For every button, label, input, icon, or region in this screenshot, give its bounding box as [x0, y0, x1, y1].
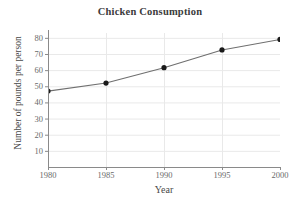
data-point — [161, 65, 166, 70]
chart-title: Chicken Consumption — [0, 6, 300, 17]
y-tick-label: 30 — [3, 115, 43, 124]
plot-area — [48, 33, 280, 167]
y-tick-label: 80 — [3, 34, 43, 43]
y-tick-label: 20 — [3, 131, 43, 140]
data-point — [277, 37, 280, 42]
x-tick-label: 1980 — [28, 171, 68, 180]
x-tick-label: 1995 — [202, 171, 242, 180]
y-tick-label: 60 — [3, 66, 43, 75]
line-chart-svg — [48, 33, 280, 167]
y-tick-label: 70 — [3, 50, 43, 59]
x-tick-label: 1990 — [144, 171, 184, 180]
y-tick-label: 40 — [3, 98, 43, 107]
x-tick-label: 2000 — [260, 171, 300, 180]
y-tick-label: 10 — [3, 147, 43, 156]
data-point — [48, 89, 51, 94]
data-point — [103, 80, 108, 85]
chart-figure: Chicken Consumption Number of pounds per… — [0, 0, 300, 207]
y-tick-label: 50 — [3, 82, 43, 91]
vertical-gridlines — [49, 33, 281, 167]
x-axis-title: Year — [48, 184, 280, 195]
x-tick-label: 1985 — [86, 171, 126, 180]
data-point — [219, 47, 224, 52]
